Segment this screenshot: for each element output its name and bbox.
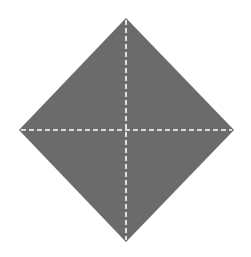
diagram-canvas <box>0 0 251 257</box>
diamond-diagram <box>0 0 251 257</box>
